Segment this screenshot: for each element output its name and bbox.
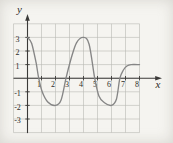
y-tick-label: 1 (16, 62, 20, 71)
y-axis-arrow-icon (25, 14, 30, 21)
y-tick-label: 3 (16, 35, 20, 44)
x-tick-label: 8 (135, 80, 139, 89)
x-tick-label: 2 (51, 80, 55, 89)
graph-figure: 12345678321-1-2-3yx (0, 0, 173, 143)
y-axis-label: y (16, 3, 22, 15)
x-tick-label: 6 (107, 80, 111, 89)
y-tick-label: -1 (14, 89, 21, 98)
function-graph-canvas: 12345678321-1-2-3yx (0, 0, 173, 143)
x-tick-label: 7 (121, 80, 125, 89)
x-axis-label: x (155, 78, 161, 90)
x-tick-label: 4 (79, 80, 83, 89)
y-tick-label: 2 (16, 48, 20, 57)
y-tick-label: -2 (14, 103, 21, 112)
y-tick-label: -3 (14, 116, 21, 125)
